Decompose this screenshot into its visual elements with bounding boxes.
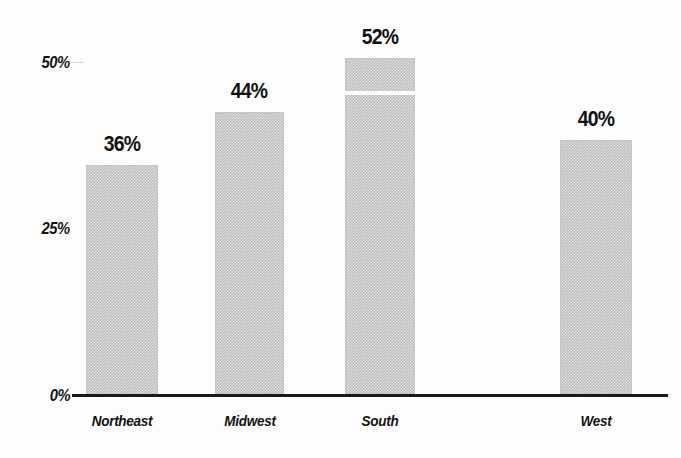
category-label-south: South [339, 412, 422, 429]
scan-artifact-line [345, 91, 415, 95]
x-axis-baseline [72, 394, 668, 397]
value-label-northeast: 36% [90, 131, 153, 157]
bar-midwest [215, 112, 284, 394]
value-label-south: 52% [348, 24, 411, 50]
value-label-west: 40% [564, 106, 627, 132]
plot-area: 50% 25% 0% 36% 44% 52% 40% Northeast Mid… [0, 0, 681, 458]
category-label-northeast: Northeast [81, 412, 164, 429]
y-axis-tick-label-50: 50% [42, 54, 70, 72]
bar-chart: 50% 25% 0% 36% 44% 52% 40% Northeast Mid… [0, 0, 681, 458]
category-label-midwest: Midwest [209, 412, 292, 429]
y-axis-tick-mark-50 [72, 62, 84, 63]
bar-west [560, 140, 632, 394]
y-axis-tick-label-0: 0% [49, 387, 70, 405]
value-label-midwest: 44% [217, 78, 280, 104]
y-axis-tick-label-25: 25% [42, 220, 70, 238]
category-label-west: West [555, 412, 638, 429]
bar-south [345, 58, 415, 394]
bar-northeast [86, 165, 158, 394]
